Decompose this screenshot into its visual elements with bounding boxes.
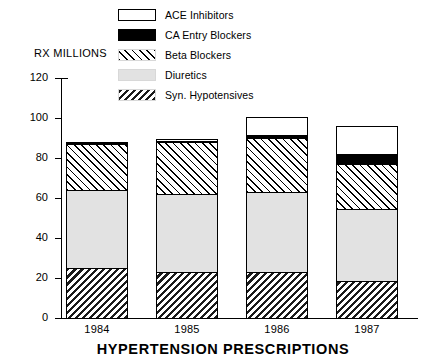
segment-divider: [157, 142, 217, 143]
bar-segment-diuretics-1984: [66, 190, 128, 268]
bar-1985: [156, 139, 218, 318]
segment-divider: [247, 192, 307, 193]
segment-divider: [67, 190, 127, 191]
x-tick-label-1984: 1984: [66, 323, 128, 335]
bar-segment-diuretics-1986: [246, 192, 308, 272]
y-tick-label: 80: [14, 152, 48, 163]
y-tick-80: [55, 158, 62, 159]
y-tick-label: 120: [14, 72, 48, 83]
legend-item-beta-blockers: Beta Blockers: [118, 46, 308, 64]
y-tick-0: [55, 318, 62, 319]
chart-title: HYPERTENSION PRESCRIPTIONS: [0, 341, 446, 357]
beta-blockers-swatch: [118, 49, 156, 61]
bar-segment-syn-hypotensives-1985: [156, 272, 218, 318]
legend-label: ACE Inhibitors: [165, 9, 234, 21]
bar-segment-beta-blockers-1984: [66, 144, 128, 190]
ca-entry-blockers-swatch: [118, 29, 156, 41]
bar-1986: [246, 117, 308, 318]
y-tick-20: [55, 278, 62, 279]
segment-divider: [247, 135, 307, 136]
segment-divider: [247, 272, 307, 273]
segment-divider: [337, 281, 397, 282]
y-tick-label-group: 120 100 80 60 40 20 0: [14, 0, 48, 353]
legend-item-ace-inhibitors: ACE Inhibitors: [118, 6, 308, 24]
y-tick-label: 40: [14, 232, 48, 243]
segment-divider: [157, 194, 217, 195]
segment-divider: [157, 272, 217, 273]
segment-divider: [247, 138, 307, 139]
segment-divider: [337, 209, 397, 210]
bar-segment-syn-hypotensives-1984: [66, 268, 128, 318]
bar-segment-ace-inhibitors-1986: [246, 117, 308, 135]
legend-label: Beta Blockers: [165, 49, 231, 61]
segment-divider: [337, 164, 397, 165]
bar-segment-ca-entry-blockers-1987: [336, 154, 398, 164]
bar-segment-beta-blockers-1986: [246, 138, 308, 192]
bar-segment-beta-blockers-1987: [336, 164, 398, 209]
bar-segment-syn-hypotensives-1987: [336, 281, 398, 318]
bar-segment-beta-blockers-1985: [156, 142, 218, 194]
bar-segment-diuretics-1985: [156, 194, 218, 272]
y-tick-label: 20: [14, 272, 48, 283]
y-tick-100: [55, 118, 62, 119]
segment-divider: [67, 144, 127, 145]
y-tick-label: 0: [14, 312, 48, 323]
bar-1984: [66, 142, 128, 318]
x-axis-line: [61, 318, 418, 319]
segment-divider: [67, 268, 127, 269]
bar-1987: [336, 126, 398, 318]
y-tick-60: [55, 198, 62, 199]
y-tick-40: [55, 238, 62, 239]
x-tick-label-1986: 1986: [246, 323, 308, 335]
y-tick-label: 60: [14, 192, 48, 203]
x-tick-label-1985: 1985: [156, 323, 218, 335]
bar-segment-syn-hypotensives-1986: [246, 272, 308, 318]
bar-segment-diuretics-1987: [336, 209, 398, 281]
legend-label: CA Entry Blockers: [165, 29, 251, 41]
y-tick-120: [55, 78, 62, 79]
y-tick-label: 100: [14, 112, 48, 123]
ace-inhibitors-swatch: [118, 9, 156, 21]
x-tick-label-1987: 1987: [336, 323, 398, 335]
bar-segment-ace-inhibitors-1987: [336, 126, 398, 154]
plot-area: [62, 78, 418, 318]
segment-divider: [337, 154, 397, 155]
legend-item-ca-entry-blockers: CA Entry Blockers: [118, 26, 308, 44]
